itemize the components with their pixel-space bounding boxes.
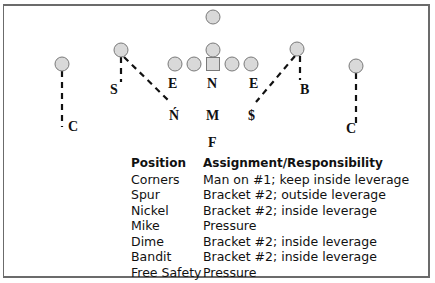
player-center-icon — [207, 58, 220, 71]
offense-players — [55, 10, 363, 73]
assignment-cell: Bracket #2; inside leverage — [203, 203, 377, 219]
assignment-cell: Man on #1; keep inside leverage — [203, 172, 409, 188]
position-cell: Bandit — [131, 249, 203, 265]
player-wr-right-slot-icon — [290, 42, 304, 56]
defender-n-nose: N — [207, 77, 217, 91]
player-wr-left-slot-icon — [114, 43, 128, 57]
assignment-cell: Pressure — [203, 218, 256, 234]
position-cell: Nickel — [131, 203, 203, 219]
table-header: Position Assignment/Responsibility — [131, 156, 409, 172]
player-wr-left-out-icon — [55, 57, 69, 71]
assignment-cell: Bracket #2; inside leverage — [203, 234, 377, 250]
defender-e-right: E — [249, 77, 258, 91]
table-row: Free Safety Pressure — [131, 265, 409, 281]
position-cell: Dime — [131, 234, 203, 250]
table-row: Dime Bracket #2; inside leverage — [131, 234, 409, 250]
defender-f-free: F — [208, 136, 217, 150]
player-back-icon — [206, 43, 220, 57]
assignment-cell: Bracket #2; outside leverage — [203, 187, 386, 203]
player-lg-icon — [187, 57, 201, 71]
defender-s-dime: $ — [248, 109, 255, 123]
position-cell: Free Safety — [131, 265, 203, 281]
table-row: Corners Man on #1; keep inside leverage — [131, 172, 409, 188]
defender-c-right: C — [346, 122, 356, 136]
position-cell: Corners — [131, 172, 203, 188]
player-rt-icon — [244, 57, 258, 71]
header-assignment: Assignment/Responsibility — [203, 156, 383, 172]
assignment-cell: Pressure — [203, 265, 256, 281]
table-row: Nickel Bracket #2; inside leverage — [131, 203, 409, 219]
player-rg-icon — [225, 57, 239, 71]
defender-n-nickel: Ń — [169, 109, 179, 123]
table-row: Mike Pressure — [131, 218, 409, 234]
defender-m-mike: M — [206, 109, 219, 123]
s-right-route — [256, 56, 295, 102]
player-wr-right-out-icon — [349, 59, 363, 73]
assignment-table: Position Assignment/Responsibility Corne… — [131, 156, 409, 280]
table-row: Bandit Bracket #2; inside leverage — [131, 249, 409, 265]
defender-c-left: C — [68, 120, 78, 134]
defender-e-left: E — [168, 77, 177, 91]
n-route — [124, 57, 170, 102]
table-row: Spur Bracket #2; outside leverage — [131, 187, 409, 203]
position-cell: Spur — [131, 187, 203, 203]
defender-b-right: B — [300, 83, 309, 97]
player-lt-icon — [168, 57, 182, 71]
defender-s-left: S — [110, 83, 118, 97]
header-position: Position — [131, 156, 203, 172]
position-cell: Mike — [131, 218, 203, 234]
assignment-cell: Bracket #2; inside leverage — [203, 249, 377, 265]
player-qb-deep-icon — [206, 10, 220, 24]
